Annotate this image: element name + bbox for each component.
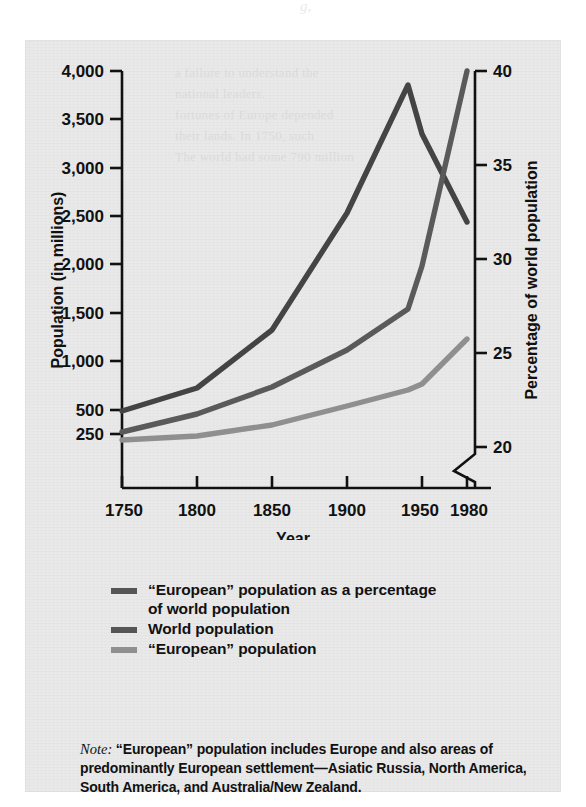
x-tick-label: 1980 <box>450 501 488 520</box>
legend-label-world-population: World population <box>148 619 274 638</box>
y2-axis-title: Percentage of world population <box>523 160 540 399</box>
figure-panel: a failure to understand the national lea… <box>25 40 561 792</box>
left-axis-ticks <box>110 71 122 434</box>
legend-item-european-population: “European” population <box>111 639 531 658</box>
left-tick-label: 2,500 <box>61 207 104 226</box>
legend-swatch-european-percentage <box>111 588 137 594</box>
legend-label-line-2: of world population <box>148 600 290 617</box>
legend-item-european-percentage: “European” population as a percentage of… <box>111 580 531 618</box>
right-axis-break-icon <box>454 448 475 488</box>
x-tick-label: 1850 <box>253 501 291 520</box>
left-tick-label: 3,500 <box>61 110 104 129</box>
x-axis-title: Year <box>276 530 310 540</box>
right-tick-label: 25 <box>493 344 512 363</box>
x-tick-label: 1900 <box>328 501 366 520</box>
legend-swatch-world-population <box>111 627 137 633</box>
legend-swatch-european-population <box>111 647 137 653</box>
left-tick-label: 250 <box>76 425 104 444</box>
x-axis-tick-labels: 1750 1800 1850 1900 1950 1980 <box>105 501 488 520</box>
right-tick-label: 30 <box>493 250 512 269</box>
page-bleed-mark: g, <box>300 0 311 15</box>
left-tick-label: 1,500 <box>61 304 104 323</box>
series-line-european-population <box>122 339 467 440</box>
x-axis-ticks <box>122 476 467 488</box>
left-tick-label: 4,000 <box>61 62 104 81</box>
left-tick-label: 500 <box>76 401 104 420</box>
right-tick-label: 20 <box>493 438 512 457</box>
left-tick-label: 2,000 <box>61 255 104 274</box>
chart-note: Note: “European” population includes Eur… <box>80 740 535 797</box>
legend-label-line-1: “European” population as a percentage <box>148 581 436 598</box>
chart-legend: “European” population as a percentage of… <box>111 580 531 659</box>
right-tick-label: 35 <box>493 156 512 175</box>
legend-item-world-population: World population <box>111 619 531 638</box>
right-tick-label: 40 <box>493 62 512 81</box>
series-line-european-percentage <box>122 85 467 411</box>
chart-plot-area: 4,000 3,500 3,000 2,500 2,000 1,500 1,00… <box>25 40 561 540</box>
series-line-world-population <box>122 71 467 432</box>
legend-label-european-population: “European” population <box>148 639 316 658</box>
x-tick-label: 1950 <box>401 501 439 520</box>
left-tick-label: 3,000 <box>61 159 104 178</box>
left-tick-label: 1,000 <box>61 352 104 371</box>
right-axis-ticks <box>475 71 487 447</box>
line-chart-svg: 4,000 3,500 3,000 2,500 2,000 1,500 1,00… <box>25 40 561 540</box>
y-axis-title: Population (in millions) <box>49 192 66 369</box>
note-label: Note: <box>80 741 112 757</box>
right-axis-tick-labels: 40 35 30 25 20 <box>493 62 512 457</box>
left-axis-tick-labels: 4,000 3,500 3,000 2,500 2,000 1,500 1,00… <box>61 62 104 444</box>
x-tick-label: 1800 <box>178 501 216 520</box>
note-text: “European” population includes Europe an… <box>80 741 527 795</box>
x-tick-label: 1750 <box>105 501 143 520</box>
legend-label-european-percentage: “European” population as a percentage of… <box>148 580 436 618</box>
